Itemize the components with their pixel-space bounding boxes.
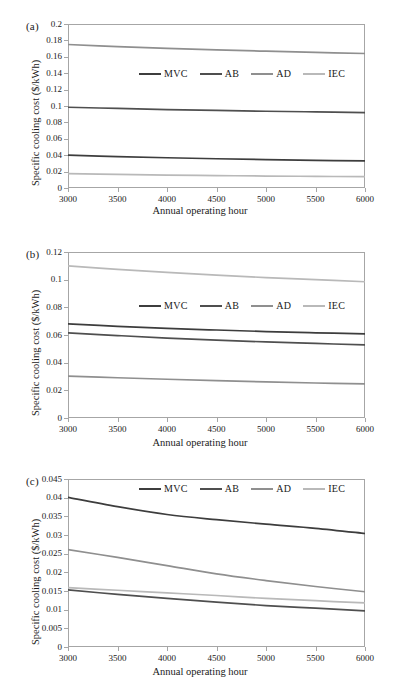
- legend-item-mvc[interactable]: MVC: [139, 68, 200, 79]
- legend-item-ad[interactable]: AD: [251, 300, 303, 311]
- legend-label-ad: AD: [276, 300, 291, 311]
- legend-item-ab[interactable]: AB: [200, 68, 252, 79]
- panel-a: (a) Specific cooling cost ($/kWh) Annual…: [0, 0, 400, 227]
- series-line-ab: [68, 333, 365, 345]
- legend-label-ab: AB: [225, 68, 240, 79]
- legend-swatch-mvc: [139, 488, 161, 490]
- legend-item-iec[interactable]: IEC: [303, 300, 345, 311]
- figure-container: (a) Specific cooling cost ($/kWh) Annual…: [0, 0, 400, 683]
- series-line-ad: [68, 376, 365, 384]
- legend-swatch-iec: [303, 488, 325, 490]
- legend-item-iec[interactable]: IEC: [303, 483, 345, 494]
- series-line-iec: [68, 266, 365, 282]
- legend-swatch-mvc: [139, 305, 161, 307]
- legend-label-ad: AD: [276, 483, 291, 494]
- legend-item-ab[interactable]: AB: [200, 483, 252, 494]
- series-layer: [0, 232, 400, 459]
- panel-c: (c) Specific cooling cost ($/kWh) Annual…: [0, 459, 400, 683]
- series-line-iec: [68, 174, 365, 177]
- legend-swatch-ab: [200, 305, 222, 307]
- legend-item-mvc[interactable]: MVC: [139, 483, 200, 494]
- legend-swatch-iec: [303, 73, 325, 75]
- legend-label-ab: AB: [225, 483, 240, 494]
- legend-swatch-mvc: [139, 73, 161, 75]
- series-line-ab: [68, 107, 365, 112]
- legend-label-iec: IEC: [328, 68, 345, 79]
- series-line-ad: [68, 550, 365, 592]
- legend-swatch-ad: [251, 488, 273, 490]
- legend: MVCABADIEC: [139, 68, 345, 79]
- legend-swatch-ab: [200, 488, 222, 490]
- series-line-mvc: [68, 497, 365, 533]
- panel-b: (b) Specific cooling cost ($/kWh) Annual…: [0, 232, 400, 459]
- legend-item-mvc[interactable]: MVC: [139, 300, 200, 311]
- legend-swatch-iec: [303, 305, 325, 307]
- legend-item-ab[interactable]: AB: [200, 300, 252, 311]
- legend-swatch-ab: [200, 73, 222, 75]
- legend-item-ad[interactable]: AD: [251, 68, 303, 79]
- legend-label-mvc: MVC: [164, 300, 188, 311]
- legend: MVCABADIEC: [139, 300, 345, 311]
- legend-item-ad[interactable]: AD: [251, 483, 303, 494]
- legend-label-iec: IEC: [328, 483, 345, 494]
- series-line-ad: [68, 45, 365, 54]
- series-layer: [0, 0, 400, 227]
- legend-item-iec[interactable]: IEC: [303, 68, 345, 79]
- legend-label-iec: IEC: [328, 300, 345, 311]
- legend-swatch-ad: [251, 305, 273, 307]
- legend-label-mvc: MVC: [164, 483, 188, 494]
- legend: MVCABADIEC: [139, 483, 345, 494]
- legend-label-ad: AD: [276, 68, 291, 79]
- legend-swatch-ad: [251, 73, 273, 75]
- legend-label-ab: AB: [225, 300, 240, 311]
- legend-label-mvc: MVC: [164, 68, 188, 79]
- series-line-iec: [68, 588, 365, 603]
- series-line-mvc: [68, 155, 365, 161]
- series-line-mvc: [68, 324, 365, 334]
